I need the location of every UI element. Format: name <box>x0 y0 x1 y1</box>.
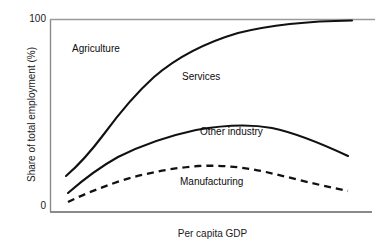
y-axis-title: Share of total employment (%) <box>26 27 37 202</box>
x-axis-title: Per capita GDP <box>50 228 375 239</box>
series-label-agriculture: Agriculture <box>72 43 120 54</box>
y-axis-tick-100: 100 <box>22 13 46 24</box>
chart-canvas <box>0 0 387 250</box>
series-label-other-industry: Other industry <box>200 126 263 137</box>
employment-share-chart: 100 0 Share of total employment (%) Per … <box>0 0 387 250</box>
series-label-services: Services <box>182 71 220 82</box>
series-label-manufacturing: Manufacturing <box>180 176 243 187</box>
